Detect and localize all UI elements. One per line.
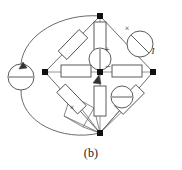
source-bottom-right: [111, 86, 133, 108]
resistor-center-right: [112, 65, 142, 77]
node-center: [97, 69, 103, 75]
label-minus: −: [105, 61, 111, 72]
circuit-diagram: + − I × ×: [0, 0, 182, 170]
resistor-center-bottom: [94, 86, 106, 116]
label-plus: +: [104, 44, 110, 55]
node-left: [42, 69, 48, 75]
node-right: [150, 69, 156, 75]
label-current-i: I: [151, 46, 156, 56]
source-top-right: [127, 31, 153, 57]
label-cross-bottom-left: ×: [70, 103, 75, 112]
circuit-figure: + − I × × (b): [0, 0, 182, 170]
node-top: [97, 13, 103, 19]
resistor-top-left: [58, 30, 87, 60]
figure-caption: (b): [0, 146, 182, 161]
resistor-center-left: [61, 65, 91, 77]
node-bottom: [97, 130, 103, 136]
label-cross-top-right: ×: [125, 24, 130, 33]
